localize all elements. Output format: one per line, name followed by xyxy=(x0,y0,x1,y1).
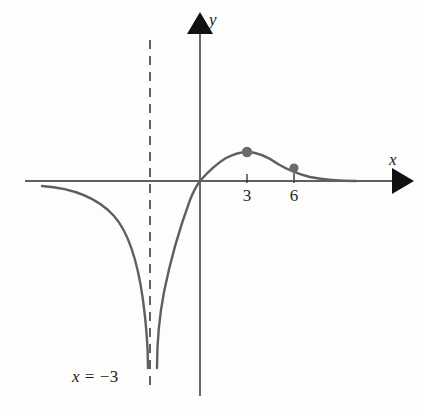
asymptote-variable: x xyxy=(72,367,80,386)
asymptote-equation-label: x = −3 xyxy=(72,367,119,387)
y-axis-label: y xyxy=(209,10,217,30)
x-tick-label-6: 6 xyxy=(282,186,306,206)
asymptote-equals-sign: = xyxy=(85,367,95,386)
marked-point-inflection xyxy=(289,163,298,172)
curve-right-branch xyxy=(157,152,356,368)
x-axis-label: x xyxy=(389,150,397,170)
figure-canvas: y x 3 6 x = −3 xyxy=(0,0,424,415)
curve-left-branch xyxy=(42,186,148,368)
asymptote-value: −3 xyxy=(100,367,119,386)
x-tick-label-3: 3 xyxy=(235,186,259,206)
marked-point-maximum xyxy=(242,147,252,157)
x-axis-arrowhead xyxy=(392,168,414,194)
graph-plot xyxy=(0,0,424,415)
